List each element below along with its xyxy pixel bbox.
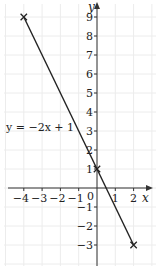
y-tick-label: −2 xyxy=(77,220,93,233)
x-tick-label: −4 xyxy=(13,192,29,205)
x-tick-label: −2 xyxy=(49,192,65,205)
y-tick-label: 5 xyxy=(86,87,93,100)
y-tick-label: 1 xyxy=(86,163,93,176)
y-axis-arrow-icon xyxy=(94,2,100,9)
x-axis-label: x xyxy=(142,191,149,205)
y-axis-label: y xyxy=(87,0,95,14)
x-tick-label: 2 xyxy=(130,192,137,205)
y-tick-label: 7 xyxy=(86,49,93,62)
y-tick-label: 8 xyxy=(86,30,93,43)
y-tick-label: −3 xyxy=(77,239,93,252)
x-tick-label: −3 xyxy=(31,192,47,205)
line-chart: −4−3−2−1120−3−2−1123456789xyy = −2x + 1 xyxy=(0,0,160,271)
y-tick-label: 2 xyxy=(86,144,93,157)
y-tick-label: 3 xyxy=(86,125,93,138)
equation-label: y = −2x + 1 xyxy=(5,121,74,134)
y-tick-label: −1 xyxy=(77,201,93,214)
y-tick-label: 6 xyxy=(86,68,93,81)
y-tick-label: 4 xyxy=(86,106,93,119)
